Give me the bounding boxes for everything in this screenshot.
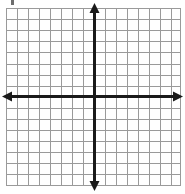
coordinate-plane-figure (0, 0, 185, 194)
scan-artifact-mark (11, 0, 14, 5)
coordinate-grid-svg (0, 0, 185, 194)
